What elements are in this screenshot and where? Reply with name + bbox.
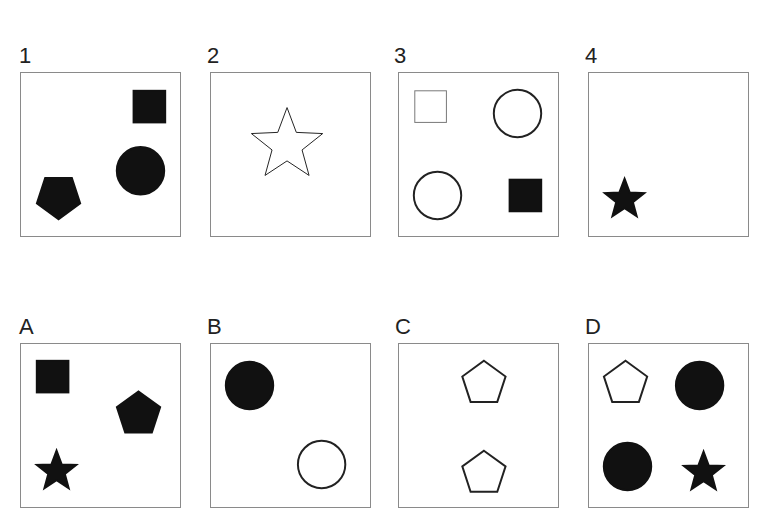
answer-option-d[interactable] [588, 343, 749, 508]
panel-1-shapes [21, 73, 180, 236]
filled-pentagon-icon [117, 391, 160, 432]
outline-pentagon-icon [462, 451, 505, 492]
option-label-b: B [207, 316, 222, 338]
outline-circle-icon [298, 441, 345, 488]
outline-pentagon-icon [462, 361, 505, 402]
question-panel-3 [398, 72, 559, 237]
outline-star-icon [251, 108, 322, 176]
answer-option-a[interactable] [20, 343, 181, 508]
outline-square-icon [415, 91, 447, 123]
panel-4-shapes [589, 73, 748, 236]
outline-circle-icon [494, 90, 541, 137]
question-panel-4 [588, 72, 749, 237]
panel-label-3: 3 [394, 45, 406, 67]
panel-2-shapes [211, 73, 370, 236]
filled-square-icon [37, 361, 69, 393]
panel-label-4: 4 [585, 45, 597, 67]
panel-label-1: 1 [19, 45, 31, 67]
filled-star-icon [605, 179, 645, 217]
answer-option-b[interactable] [210, 343, 371, 508]
filled-square-icon [134, 91, 166, 123]
filled-star-icon [684, 452, 724, 490]
answer-option-c[interactable] [398, 343, 559, 508]
option-a-shapes [21, 344, 180, 507]
filled-circle-icon [604, 443, 651, 490]
filled-circle-icon [117, 147, 164, 194]
filled-circle-icon [676, 362, 723, 409]
option-label-c: C [395, 316, 411, 338]
option-c-shapes [399, 344, 558, 507]
filled-circle-icon [226, 362, 273, 409]
filled-star-icon [37, 451, 77, 489]
option-b-shapes [211, 344, 370, 507]
filled-square-icon [510, 180, 542, 212]
cropped-question-text [0, 0, 761, 8]
panel-label-2: 2 [207, 45, 219, 67]
question-panel-2 [210, 72, 371, 237]
filled-pentagon-icon [37, 178, 80, 219]
option-d-shapes [589, 344, 748, 507]
option-label-a: A [19, 316, 34, 338]
question-panel-1 [20, 72, 181, 237]
panel-3-shapes [399, 73, 558, 236]
option-label-d: D [585, 316, 601, 338]
outline-pentagon-icon [604, 361, 647, 402]
outline-circle-icon [414, 172, 461, 219]
